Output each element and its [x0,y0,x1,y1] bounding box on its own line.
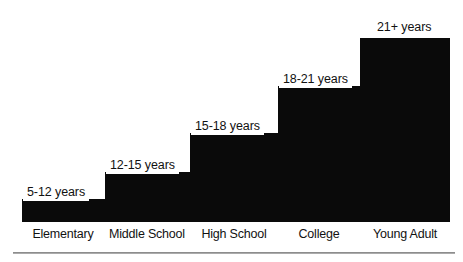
bar-college [278,86,360,222]
bar-high-school [190,133,278,222]
value-label-young-adult: 21+ years [373,18,435,36]
value-label-middle-school: 12-15 years [106,156,179,174]
category-label-young-adult: Young Adult [350,226,460,243]
bar-elementary [22,199,105,222]
value-label-elementary: 5-12 years [23,183,89,201]
bottom-rule [13,252,455,254]
chart-plot-area: 5-12 years 12-15 years 15-18 years 18-21… [0,0,463,262]
value-label-college: 18-21 years [279,70,352,88]
chart-figure: 5-12 years 12-15 years 15-18 years 18-21… [0,0,463,262]
value-label-high-school: 15-18 years [191,117,264,135]
bar-young-adult [360,38,450,222]
bar-middle-school [105,172,190,222]
